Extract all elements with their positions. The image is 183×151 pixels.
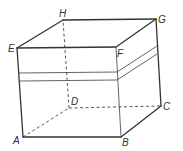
- edge-DC: [69, 106, 161, 108]
- edge-FB: [116, 47, 121, 137]
- edge-AD: [23, 108, 69, 137]
- label-A: A: [12, 135, 20, 146]
- label-H: H: [59, 8, 67, 19]
- cuboid-diagram: A B C D E F G H: [0, 0, 183, 151]
- edge-EF: [17, 47, 116, 48]
- label-C: C: [163, 101, 171, 112]
- band-front-upper: [18, 72, 117, 73]
- edge-GH: [63, 19, 156, 20]
- label-F: F: [117, 48, 124, 59]
- label-G: G: [158, 14, 166, 25]
- edge-CG: [156, 19, 161, 106]
- label-B: B: [122, 137, 129, 148]
- edge-FG: [116, 19, 156, 47]
- edge-BC: [121, 106, 161, 137]
- label-D: D: [71, 96, 78, 107]
- label-E: E: [8, 43, 15, 54]
- edge-DH: [63, 20, 69, 108]
- band-front-lower: [19, 80, 117, 81]
- edge-EA: [17, 48, 23, 137]
- edge-HE: [17, 20, 63, 48]
